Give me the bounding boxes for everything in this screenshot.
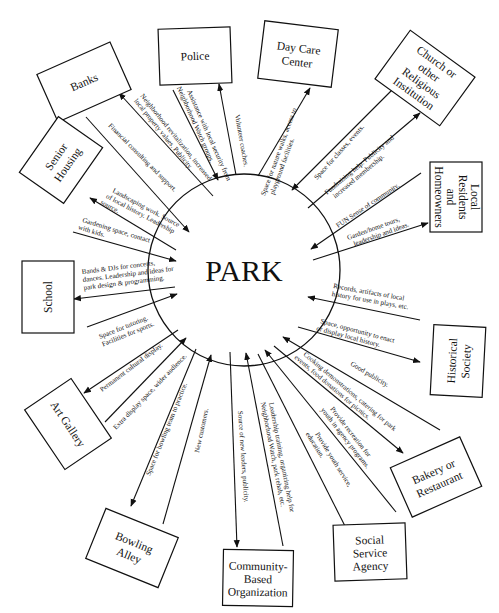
node-bakery: Bakery or Restaurant [390,437,481,517]
edge-park-to-community [230,352,237,547]
svg-text:Service: Service [353,546,388,559]
edge-label-park-to-community: Source of new leaders, publicity. [236,411,250,503]
svg-text:Assistance with local security: Assistance with local security from [185,89,233,183]
node-artgallery: Art Gallery [25,378,112,469]
park-label: PARK [205,254,283,287]
edge-label-park-to-police: Volunteer coaches. [233,114,250,168]
edge-park-to-bakery [274,346,403,453]
edge-label-park-to-historical: Space, opportunity to enact or display l… [315,317,395,353]
edge-label-senior-to-park: Gardening space, contact with kids. [77,216,151,253]
svg-text:Good publicity.: Good publicity. [349,360,391,389]
edge-label-historical-to-park: Records, artifacts of local history for … [331,282,410,311]
svg-text:Community-: Community- [229,559,288,573]
node-senior: Senior Housing [19,117,102,204]
svg-text:Homeowners: Homeowners [433,166,445,228]
node-historical: Historical Society [430,325,486,398]
svg-text:Organization: Organization [228,585,288,599]
node-daycare: Day Care Center [258,21,339,88]
park-node: PARK [148,174,340,366]
node-banks: Banks [37,42,131,122]
node-community: Community- Based Organization [223,549,294,606]
park-partnership-diagram: PARK [0,0,499,613]
svg-text:New customers.: New customers. [193,407,210,453]
node-school: School [22,261,74,333]
edge-label-bowling-to-park: New customers. [193,407,210,453]
svg-text:Local: Local [469,184,481,210]
svg-text:Fundraising help. Publicity an: Fundraising help. Publicity and [323,134,396,197]
edge-label-bakery-to-park: Good publicity. [349,360,391,389]
svg-text:Historical: Historical [445,338,459,384]
edge-label-school-to-park: Space for tutoring. Facilities for sport… [98,312,156,348]
svg-text:School: School [42,281,54,313]
svg-text:Cooking demonstrations, cateri: Cooking demonstrations, catering for par… [302,350,399,433]
svg-text:Based: Based [244,573,273,585]
svg-text:Agency: Agency [352,559,388,573]
svg-text:and: and [445,189,457,206]
node-police: Police [158,27,232,85]
svg-text:Volunteer coaches.: Volunteer coaches. [233,114,250,168]
node-social: Social Service Agency [333,523,407,581]
svg-text:Police: Police [180,50,209,63]
svg-text:Residents: Residents [457,175,469,220]
node-church: Church or other Religious Institution [375,30,475,126]
svg-text:Source of new leaders, publici: Source of new leaders, publicity. [236,411,250,503]
node-residents: Local Residents and Homeowners [430,162,482,232]
svg-text:Social: Social [355,534,384,547]
edge-label-community-to-park: Leadership training, organizing help for… [259,400,297,515]
